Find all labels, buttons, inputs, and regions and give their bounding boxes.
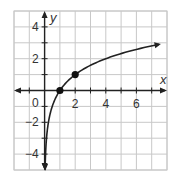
y-tick-label: 2 bbox=[32, 52, 39, 66]
graph: 24642−2−4 y x 0 bbox=[0, 0, 176, 181]
origin-label: 0 bbox=[32, 96, 39, 110]
x-tick-label: 6 bbox=[133, 97, 140, 111]
x-tick-label: 4 bbox=[102, 97, 109, 111]
data-point bbox=[72, 71, 79, 78]
x-tick-label: 2 bbox=[72, 97, 79, 111]
x-axis-label: x bbox=[159, 72, 167, 87]
data-point bbox=[56, 87, 63, 94]
y-tick-label: 4 bbox=[32, 20, 39, 34]
y-tick-label: −4 bbox=[25, 147, 39, 161]
y-tick-label: −2 bbox=[25, 115, 39, 129]
